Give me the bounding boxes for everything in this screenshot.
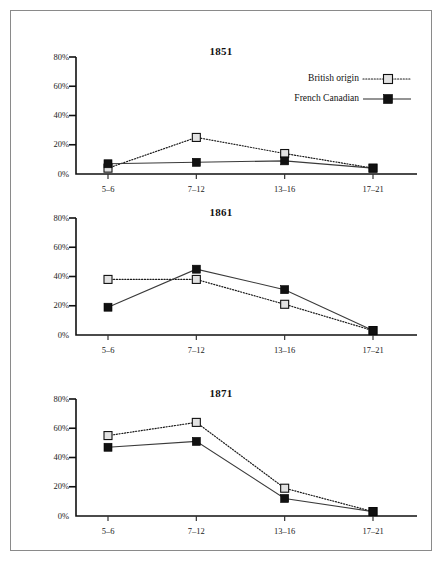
series-line-french-canadian [108,269,373,330]
figure-border: 18510%20%40%60%80%5–67–1213–1617–21Briti… [10,10,432,551]
x-axis-tick-label: 13–16 [255,345,315,355]
chart-panel-1871: 18710%20%40%60%80%5–67–1213–1617–21 [11,377,431,547]
filled-square-marker [369,508,377,516]
x-axis-tick-label: 17–21 [343,526,403,536]
open-square-marker [192,133,200,141]
filled-square-marker [104,443,112,451]
y-axis-tick-label: 0% [19,330,69,340]
series-line-british-origin [108,279,373,330]
y-axis-tick-label: 20% [19,139,69,149]
open-square-marker [281,300,289,308]
plot-area-1861 [11,196,431,366]
y-axis-tick-label: 0% [19,169,69,179]
series-line-british-origin [108,422,373,511]
legend-label-french-canadian: French Canadian [191,93,359,103]
axis-lines [76,218,417,335]
y-axis-tick-label: 60% [19,81,69,91]
filled-square-marker [369,327,377,335]
y-axis-tick-label: 80% [19,52,69,62]
open-square-marker [281,150,289,158]
y-axis-tick-label: 80% [19,213,69,223]
x-axis-tick-label: 7–12 [166,345,226,355]
y-axis-tick-label: 40% [19,271,69,281]
x-axis-tick-label: 5–6 [78,184,138,194]
filled-square-marker [281,494,289,502]
x-axis-tick-label: 5–6 [78,345,138,355]
legend-open-square-marker [384,75,393,84]
panel-title-1861: 1861 [161,206,281,218]
filled-square-marker [104,160,112,168]
filled-square-marker [192,437,200,445]
y-axis-tick-label: 80% [19,394,69,404]
open-square-marker [192,275,200,283]
y-axis-tick-label: 0% [19,511,69,521]
x-axis-tick-label: 7–12 [166,184,226,194]
open-square-marker [281,484,289,492]
y-axis-tick-label: 20% [19,300,69,310]
x-axis-tick-label: 17–21 [343,184,403,194]
legend-label-british-origin: British origin [191,73,359,83]
filled-square-marker [192,158,200,166]
x-axis-tick-label: 13–16 [255,184,315,194]
x-axis-tick-label: 7–12 [166,526,226,536]
y-axis-tick-label: 40% [19,110,69,120]
open-square-marker [192,418,200,426]
open-square-marker [104,275,112,283]
plot-area-1871 [11,377,431,547]
plot-area-1851 [11,35,431,205]
chart-panel-1851: 18510%20%40%60%80%5–67–1213–1617–21Briti… [11,35,431,205]
x-axis-tick-label: 13–16 [255,526,315,536]
filled-square-marker [281,286,289,294]
x-axis-tick-label: 17–21 [343,345,403,355]
x-axis-tick-label: 5–6 [78,526,138,536]
filled-square-marker [369,164,377,172]
y-axis-tick-label: 60% [19,423,69,433]
panel-title-1851: 1851 [161,45,281,57]
filled-square-marker [192,265,200,273]
y-axis-tick-label: 40% [19,452,69,462]
open-square-marker [104,432,112,440]
filled-square-marker [104,303,112,311]
y-axis-tick-label: 20% [19,481,69,491]
axis-lines [76,399,417,516]
panel-title-1871: 1871 [161,387,281,399]
chart-panel-1861: 18610%20%40%60%80%5–67–1213–1617–21 [11,196,431,366]
filled-square-marker [281,157,289,165]
y-axis-tick-label: 60% [19,242,69,252]
legend-filled-square-marker [384,95,393,104]
